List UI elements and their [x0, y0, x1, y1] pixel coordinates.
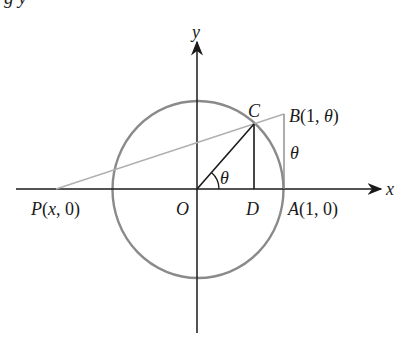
label-D: D — [245, 199, 259, 219]
label-O: O — [176, 199, 189, 219]
label-A: A(1, 0) — [287, 199, 338, 220]
y-axis-label: y — [190, 22, 200, 42]
segment-theta-label: θ — [290, 143, 299, 163]
angle-arc — [212, 173, 220, 190]
label-C: C — [248, 101, 261, 121]
unit-circle-diagram: y x O D A(1, 0) C B(1, θ) P(x, 0) θ θ — [0, 0, 408, 342]
x-axis-label: x — [385, 179, 394, 199]
label-P: P(x, 0) — [30, 199, 80, 220]
label-B: B(1, θ) — [289, 106, 339, 127]
line-P-to-B — [56, 114, 284, 189]
angle-theta-label: θ — [220, 168, 229, 188]
